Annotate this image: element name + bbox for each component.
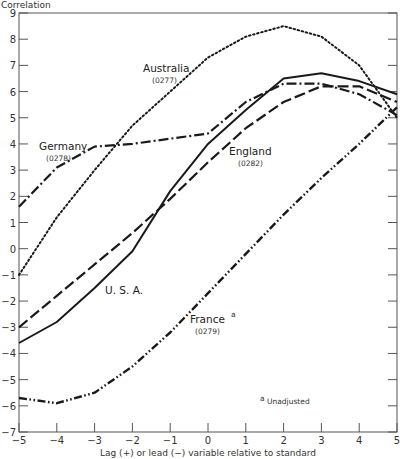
y-tick-label: −2 [1, 296, 16, 307]
label-france: France [190, 313, 225, 325]
y-tick-label: 8 [10, 34, 16, 45]
x-tick-label: −1 [163, 435, 178, 446]
correlation-line-chart: 9876543210−1−2−3−4−5−6−7 −5−4−3−2−101234… [0, 0, 405, 459]
y-tick-label: 3 [10, 165, 16, 176]
x-tick-label: −5 [12, 435, 27, 446]
series-lines [19, 26, 397, 403]
y-tick-label: −1 [1, 270, 16, 281]
plot-frame [19, 13, 397, 432]
series-line-usa [19, 73, 397, 343]
y-tick-label: −3 [1, 322, 16, 333]
label-australia: Australia [143, 62, 189, 74]
label-france-code: (0279) [195, 327, 220, 336]
label-england: England [229, 145, 272, 157]
x-axis-title: Lag (+) or lead (−) variable relative to… [100, 448, 316, 458]
x-tick-label: −2 [125, 435, 140, 446]
label-germany-code: (0278) [46, 154, 71, 163]
label-australia-code: (0277) [152, 76, 177, 85]
y-tick-label: −6 [1, 401, 16, 412]
y-tick-label: 1 [10, 218, 16, 229]
x-tick-label: 1 [243, 435, 249, 446]
label-england-code: (0282) [238, 159, 263, 168]
x-tick-label: −4 [49, 435, 64, 446]
label-germany: Germany [39, 140, 87, 152]
x-tick-label: 5 [394, 435, 400, 446]
y-tick-label: 7 [10, 60, 16, 71]
x-tick-label: 4 [356, 435, 362, 446]
x-axis: −5−4−3−2−1012345 [12, 423, 401, 446]
series-line-england [19, 86, 397, 327]
footnote-marker: a [260, 394, 265, 403]
footnote-text: Unadjusted [267, 397, 310, 406]
x-tick-label: 0 [205, 435, 211, 446]
x-tick-label: 2 [280, 435, 286, 446]
x-tick-label: −3 [87, 435, 102, 446]
x-tick-label: 3 [318, 435, 324, 446]
y-tick-label: 4 [10, 139, 16, 150]
y-axis: 9876543210−1−2−3−4−5−6−7 [1, 8, 397, 438]
y-axis-title: Correlation [1, 0, 51, 10]
y-tick-label: 2 [10, 191, 16, 202]
label-france-sup: a [231, 310, 236, 319]
y-tick-label: −4 [1, 348, 16, 359]
y-tick-label: 6 [10, 87, 16, 98]
label-usa: U. S. A. [105, 284, 143, 296]
y-tick-label: 0 [10, 244, 16, 255]
y-tick-label: 5 [10, 113, 16, 124]
y-tick-label: −5 [1, 375, 16, 386]
